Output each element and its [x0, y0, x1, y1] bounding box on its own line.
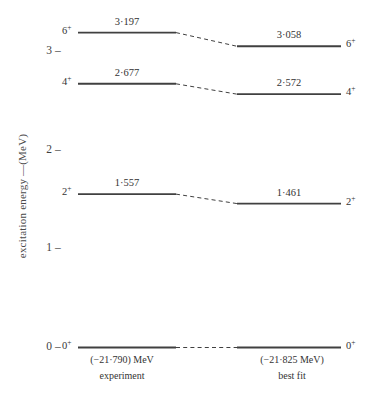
energy-value-bestfit-2plus: 1·461 [227, 187, 351, 198]
y-axis-tick-label-0: 0 [18, 340, 52, 352]
energy-value-bestfit-4plus: 2·572 [227, 77, 351, 88]
experiment-caption: experiment [52, 370, 192, 381]
energy-value-experiment-2plus: 1·557 [68, 177, 186, 188]
energy-value-experiment-6plus: 3·197 [68, 16, 186, 27]
y-axis-tick-label-1: 1 [18, 241, 52, 253]
experiment-binding-energy: (−21·790) MeV [52, 354, 192, 365]
y-axis-tick-mark-3: – [55, 44, 61, 56]
y-axis-tick-label-2: 2 [18, 143, 52, 155]
y-axis-tick-mark-0: – [55, 340, 61, 352]
best-fit-caption: best fit [222, 370, 362, 381]
spin-parity-label-experiment-0plus: 0+ [62, 340, 71, 351]
energy-level-diagram: excitation energy —(MeV) 0–1–2–3– 0+2+1·… [0, 0, 377, 399]
y-axis-tick-mark-1: – [55, 241, 61, 253]
energy-value-experiment-4plus: 2·677 [68, 67, 186, 78]
y-axis-tick-mark-2: – [55, 143, 61, 155]
y-axis-tick-label-3: 3 [18, 44, 52, 56]
y-axis-title: excitation energy —(MeV) [16, 96, 28, 296]
spin-parity-label-bestfit-0plus: 0+ [346, 340, 355, 351]
best-fit-binding-energy: (−21·825 MeV) [222, 354, 362, 365]
energy-value-bestfit-6plus: 3·058 [227, 29, 351, 40]
